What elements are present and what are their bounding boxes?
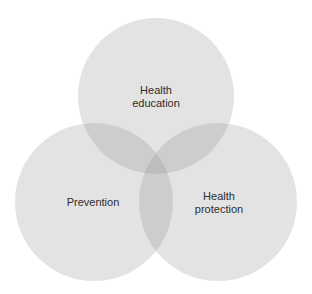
label-line: protection [195, 203, 243, 216]
venn-diagram [0, 0, 312, 294]
label-health-education: Health education [132, 84, 180, 110]
label-line: education [132, 97, 180, 110]
label-line: Health [132, 84, 180, 97]
label-line: Health [195, 190, 243, 203]
label-prevention: Prevention [67, 196, 120, 209]
label-health-protection: Health protection [195, 190, 243, 216]
label-line: Prevention [67, 196, 120, 209]
